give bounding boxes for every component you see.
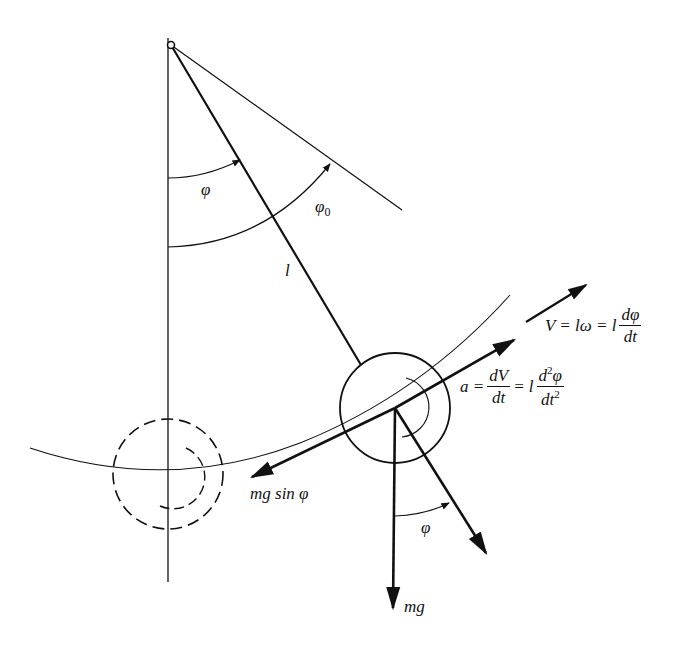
length-label: l	[285, 262, 290, 279]
pivot	[168, 42, 175, 49]
acceleration-equation: a = dVdt = l d2φdt2	[460, 365, 567, 407]
tangential-force-label: mg sin φ	[250, 485, 309, 502]
gravity-label: mg	[404, 598, 425, 615]
phi0-label: φ0	[315, 198, 330, 218]
radial-component-arrow	[395, 408, 486, 553]
velocity-equation: V = lω = l dφdt	[545, 306, 644, 345]
pendulum-diagram: φ φ0 l V = lω = l dφdt a = dVdt = l d2φd…	[0, 0, 679, 646]
gravity-arrow	[393, 408, 395, 608]
pendulum-rod	[171, 45, 361, 365]
phi-lower-label: φ	[421, 519, 430, 536]
tangential-force-arrow	[252, 408, 395, 477]
phi-label: φ	[201, 181, 210, 198]
rest-bob-inner-arc	[160, 448, 205, 509]
phi-lower-arc	[395, 503, 449, 516]
phi-arc	[168, 160, 240, 178]
